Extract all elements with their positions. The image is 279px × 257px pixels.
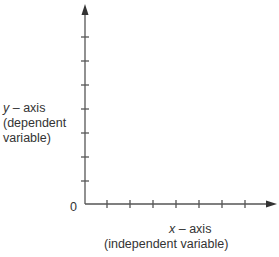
y-axis-label-line3: variable) [3, 131, 51, 145]
x-axis-label-line1: – axis [175, 222, 211, 236]
origin-label: 0 [70, 200, 77, 215]
y-axis-label-line1: – axis [9, 101, 45, 115]
x-axis-arrowhead [266, 201, 277, 208]
y-axis-arrowhead [82, 4, 89, 15]
y-axis-label: y – axis (dependent variable) [3, 101, 66, 146]
y-axis-label-line2: (dependent [3, 116, 66, 130]
x-axis-label-line2: (independent variable) [104, 237, 228, 252]
x-axis-label: x – axis (independent variable) [152, 222, 228, 252]
